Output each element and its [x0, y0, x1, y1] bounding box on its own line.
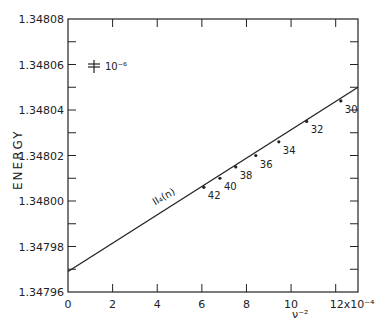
data-point-label: 36 [260, 159, 273, 170]
y-tick-label: 1.34806 [19, 59, 65, 72]
data-point [277, 140, 280, 143]
error-bar-icon [88, 60, 100, 73]
y-tick-label: 1.34796 [19, 286, 65, 299]
energy-chart: 024681012x10⁻⁴ 1.347961.347981.348001.34… [0, 0, 376, 324]
y-tick-label: 1.34808 [19, 13, 65, 26]
fit-line [68, 87, 358, 271]
data-point-label: 30 [345, 104, 358, 115]
x-tick-label: 6 [198, 298, 205, 311]
data-point-label: 34 [283, 145, 296, 156]
data-point [305, 120, 308, 123]
data-point [218, 177, 221, 180]
x-tick-label: 2 [109, 298, 116, 311]
x-tick-label: 4 [154, 298, 161, 311]
data-point-label: 42 [208, 190, 221, 201]
y-tick-label: 1.34798 [19, 241, 65, 254]
data-point-label: 40 [224, 181, 237, 192]
data-point [339, 99, 342, 102]
y-axis-ticks: 1.347961.347981.348001.348021.348041.348… [19, 13, 359, 299]
y-axis-title: ENERGY [11, 129, 25, 190]
error-bar-legend: 10⁻⁶ [88, 60, 127, 73]
data-series: 42403836343230 [68, 87, 358, 271]
x-tick-label: 0 [65, 298, 72, 311]
data-point [202, 186, 205, 189]
plot-frame [68, 19, 358, 292]
error-bar-scale: 10⁻⁶ [105, 61, 127, 72]
data-point [234, 165, 237, 168]
y-tick-label: 1.34804 [19, 104, 65, 117]
data-point [254, 154, 257, 157]
series-label: II₄(n) [151, 186, 177, 208]
data-point-label: 32 [311, 124, 324, 135]
x-axis-title: ν⁻² [292, 308, 308, 321]
plot-border [68, 19, 358, 292]
x-tick-label: 12x10⁻⁴ [330, 298, 375, 311]
y-tick-label: 1.34800 [19, 195, 65, 208]
x-tick-label: 8 [243, 298, 250, 311]
data-point-label: 38 [240, 170, 253, 181]
y-tick-label: 1.34802 [19, 150, 65, 163]
